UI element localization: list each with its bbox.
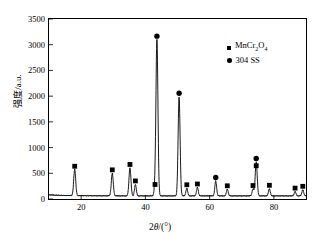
- y-tick-label: 1500: [28, 117, 45, 127]
- peak-marker-circle: [213, 175, 218, 180]
- y-tick-label: 2500: [28, 65, 45, 75]
- peak-marker-square: [300, 184, 305, 189]
- peak-marker-circle: [154, 33, 159, 38]
- xrd-figure: 强度/a.u. 0500100015002000250030003500 MnC…: [0, 0, 320, 248]
- legend-label-304ss: 304 SS: [236, 54, 260, 67]
- peak-marker-circle: [254, 156, 259, 161]
- peak-marker-square: [225, 183, 230, 188]
- peak-marker-circle: [176, 91, 181, 96]
- peak-marker-square: [184, 182, 189, 187]
- legend: MnCr2O4 304 SS: [227, 41, 267, 67]
- x-tick-label: 20: [77, 202, 86, 212]
- legend-sub-4: 4: [264, 46, 267, 52]
- circle-marker-icon: [227, 58, 232, 63]
- peak-marker-square: [110, 167, 115, 172]
- y-tick-label: 1000: [28, 143, 45, 153]
- peak-marker-square: [251, 183, 256, 188]
- plot-area: MnCr2O4 304 SS: [48, 18, 307, 200]
- peak-markers: [72, 33, 305, 190]
- legend-item-mncr2o4: MnCr2O4: [227, 41, 267, 54]
- x-tick-label: 60: [205, 202, 214, 212]
- y-tick-label: 2000: [28, 91, 45, 101]
- square-marker-icon: [227, 46, 231, 50]
- legend-item-304ss: 304 SS: [227, 54, 267, 67]
- x-axis-label: 2θ/(°): [0, 222, 320, 232]
- peak-marker-square: [293, 186, 298, 191]
- legend-mncr-text: MnCr: [235, 40, 255, 50]
- x-tick-label: 40: [141, 202, 150, 212]
- y-tick-label: 0: [41, 194, 45, 204]
- y-axis-ticks: 0500100015002000250030003500: [0, 18, 45, 200]
- peak-marker-square: [267, 183, 272, 188]
- peak-marker-square: [254, 163, 259, 168]
- y-tick-label: 3500: [28, 14, 45, 24]
- peak-marker-square: [153, 182, 158, 187]
- y-tick-marks: [49, 19, 53, 199]
- peak-marker-square: [195, 182, 200, 187]
- y-tick-label: 3000: [28, 40, 45, 50]
- peak-marker-square: [133, 179, 138, 184]
- peak-marker-square: [128, 162, 133, 167]
- x-label-suffix: /(°): [158, 222, 171, 232]
- peak-marker-square: [72, 164, 77, 169]
- y-tick-label: 500: [32, 168, 45, 178]
- x-axis-ticks: 20406080: [48, 202, 307, 216]
- x-tick-label: 80: [270, 202, 279, 212]
